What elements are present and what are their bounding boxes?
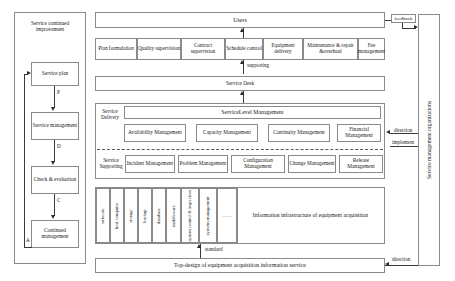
arrow-direction-mid xyxy=(386,130,390,134)
infra-col-database-label: database xyxy=(157,208,162,224)
implement-label: implement xyxy=(392,140,414,145)
infra-col-system-control-inspection-label: system control & inspection xyxy=(188,188,193,243)
process-quality-supervision[interactable]: Quality supervision xyxy=(137,38,181,60)
process-plan-formulation[interactable]: Plan formulation xyxy=(95,38,137,60)
infra-title: Information infrastructure of equipment … xyxy=(237,188,384,243)
delivery-supporting-divider xyxy=(97,149,383,150)
arrow-label-p: P xyxy=(57,90,60,95)
step-continued-management[interactable]: Continued management xyxy=(31,220,79,248)
infra-col-host-computer-label: host computer xyxy=(115,202,120,228)
arrow-standard xyxy=(197,244,201,248)
service-desk-box[interactable]: Service Desk xyxy=(95,76,385,91)
supporting-label: supporting xyxy=(247,63,269,68)
arrow-p xyxy=(51,107,55,111)
change-management-box[interactable]: Change Management xyxy=(288,155,336,173)
left-panel-title: Service continued improvement xyxy=(18,18,82,36)
infra-col-database[interactable]: database xyxy=(152,188,166,243)
loop-a-left xyxy=(24,74,25,247)
infra-col-system-control-inspection[interactable]: system control & inspection xyxy=(181,188,199,243)
process-maintenance-repair-overhaul[interactable]: Maintenance & repair &overhaul xyxy=(303,38,358,60)
right-panel-title: Service management organizations xyxy=(426,101,432,179)
infra-col-ellipsis: ...... xyxy=(217,188,237,243)
arrow-c xyxy=(51,215,55,219)
infra-col-network-label: network xyxy=(101,208,106,223)
problem-management-box[interactable]: Problem Management xyxy=(178,155,228,173)
arrow-slm-to-desk xyxy=(240,91,244,95)
step-service-plan[interactable]: Service plan xyxy=(31,62,79,86)
configuration-management-box[interactable]: Configuration Management xyxy=(231,155,285,173)
capacity-management-box[interactable]: Capacity Management xyxy=(196,124,258,142)
infra-col-middleware-label: middleware xyxy=(171,205,176,227)
direction-label-bottom: direction xyxy=(392,257,410,262)
users-box[interactable]: Users xyxy=(95,12,385,28)
infra-col-storage[interactable]: storage xyxy=(124,188,138,243)
arrow-direction-bottom xyxy=(385,262,389,266)
standard-label: standard xyxy=(205,247,223,252)
arrow-a xyxy=(27,71,31,75)
continuity-management-box[interactable]: Continuity Management xyxy=(268,124,330,142)
arrow-supporting xyxy=(240,60,244,64)
connector-check-to-continued xyxy=(54,194,55,216)
process-equipment-delivery[interactable]: Equipment delivery xyxy=(263,38,303,60)
arrow-label-d: D xyxy=(57,144,61,149)
infra-title-divider xyxy=(237,188,238,243)
arrow-feedback xyxy=(414,25,418,29)
infra-ellipsis-label: ...... xyxy=(222,213,232,218)
infra-col-systems-management-label: systems management xyxy=(206,188,211,243)
arrow-label-a: A xyxy=(26,238,30,243)
feedback-label: feedback xyxy=(391,14,416,23)
process-contract-supervision[interactable]: Contract supervision xyxy=(181,38,225,60)
arrow-label-c: C xyxy=(57,198,60,203)
right-panel-box[interactable]: Service management organizations xyxy=(418,14,440,266)
process-schedule-control[interactable]: Schedule control xyxy=(225,38,263,60)
arrow-to-users xyxy=(240,28,244,32)
direction-label-mid: direction xyxy=(394,128,412,133)
step-check-evaluation[interactable]: Check & evaluation xyxy=(31,166,79,194)
infra-col-backup-label: backup xyxy=(143,209,148,222)
step-service-management[interactable]: Service management xyxy=(31,112,79,140)
release-management-box[interactable]: Release Management xyxy=(339,155,383,173)
connector-plan-to-mgmt xyxy=(54,86,55,108)
implement-line xyxy=(390,146,418,147)
infra-col-systems-management[interactable]: systems management xyxy=(199,188,217,243)
infra-col-storage-label: storage xyxy=(129,209,134,222)
service-supporting-label: Service Supporting xyxy=(96,154,126,174)
availability-management-box[interactable]: Availability Management xyxy=(124,124,186,142)
diagram-canvas: Service continued improvement Service pl… xyxy=(0,0,455,281)
arrow-d xyxy=(51,161,55,165)
loop-a-bottom xyxy=(24,247,32,248)
direction-line-bottom xyxy=(385,265,418,266)
infra-col-middleware[interactable]: middleware xyxy=(166,188,181,243)
top-design-box[interactable]: Top-design of equipment acquisition info… xyxy=(95,258,385,273)
connector-mgmt-to-check xyxy=(54,140,55,162)
infra-col-network[interactable]: network xyxy=(96,188,110,243)
service-level-management-box[interactable]: ServiceLevel Management xyxy=(124,106,381,119)
infra-col-host-computer[interactable]: host computer xyxy=(110,188,124,243)
infra-col-backup[interactable]: backup xyxy=(138,188,152,243)
service-delivery-label: Service Delivery xyxy=(96,106,124,124)
process-fee-management[interactable]: Fee management xyxy=(358,38,385,60)
incident-management-box[interactable]: Incident Management xyxy=(125,155,175,173)
financial-management-box[interactable]: Financial Management xyxy=(337,124,381,142)
